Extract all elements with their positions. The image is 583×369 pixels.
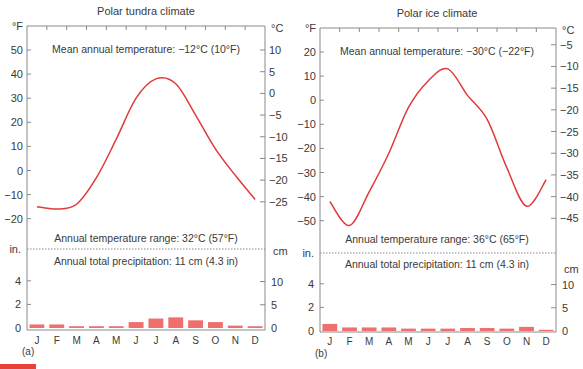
month-label: M: [365, 336, 373, 347]
precipitation-bar: [440, 329, 455, 331]
precipitation-bar: [460, 328, 475, 331]
tick-label-fahrenheit: −40: [297, 191, 316, 203]
month-label: M: [404, 336, 412, 347]
precipitation-bar: [342, 327, 357, 331]
month-label: N: [523, 336, 530, 347]
tick-label-celsius: −10: [560, 60, 579, 72]
month-label: J: [426, 336, 431, 347]
chart-panel-b: Polar ice climate°F°C20100−10−20−30−40−5…: [0, 0, 583, 369]
precipitation-bar: [480, 328, 495, 331]
tick-label-celsius: −15: [560, 82, 579, 94]
tick-label-celsius: −30: [560, 147, 579, 159]
unit-label-fahrenheit: °F: [305, 22, 316, 34]
month-label: S: [484, 336, 491, 347]
tick-label-fahrenheit: −50: [297, 215, 316, 227]
polar-ice-chart: Polar ice climate°F°C20100−10−20−30−40−5…: [0, 0, 583, 369]
precipitation-bar: [519, 327, 534, 331]
month-label: O: [503, 336, 511, 347]
tick-label-centimeters: 0: [562, 325, 568, 337]
month-label: J: [445, 336, 450, 347]
annual-total-precipitation-label: Annual total precipitation: 11 cm (4.3 i…: [345, 258, 529, 270]
panel-label: (b): [315, 348, 327, 359]
precipitation-bar: [322, 324, 337, 331]
temperature-curve: [330, 68, 546, 225]
precipitation-bar: [401, 329, 416, 331]
chart-title: Polar ice climate: [397, 7, 478, 19]
precipitation-bar: [499, 329, 514, 331]
tick-label-inches: 0: [308, 325, 314, 337]
precipitation-bar: [381, 327, 396, 331]
tick-label-fahrenheit: −20: [297, 142, 316, 154]
precipitation-bar: [539, 330, 554, 331]
figure-label-mark: [0, 364, 36, 369]
month-label: D: [543, 336, 550, 347]
unit-label-centimeters: cm: [564, 263, 579, 275]
tick-label-celsius: −45: [560, 212, 579, 224]
tick-label-inches: 4: [308, 278, 314, 290]
tick-label-celsius: −25: [560, 126, 579, 138]
precipitation-bar: [362, 327, 377, 331]
month-label: F: [346, 336, 352, 347]
tick-label-fahrenheit: 20: [304, 46, 316, 58]
tick-label-inches: 2: [308, 301, 314, 313]
unit-label-inches: in.: [302, 247, 314, 259]
month-label: J: [327, 336, 332, 347]
month-label: A: [464, 336, 471, 347]
tick-label-centimeters: 10: [562, 279, 574, 291]
precipitation-bar: [421, 329, 436, 331]
tick-label-celsius: −5: [560, 39, 573, 51]
tick-label-fahrenheit: 0: [310, 94, 316, 106]
tick-label-fahrenheit: −10: [297, 118, 316, 130]
tick-label-celsius: −20: [560, 104, 579, 116]
tick-label-centimeters: 5: [562, 302, 568, 314]
mean-annual-temperature-label: Mean annual temperature: −30°C (−22°F): [340, 45, 534, 57]
unit-label-celsius: °C: [562, 24, 574, 36]
tick-label-fahrenheit: −30: [297, 167, 316, 179]
tick-label-fahrenheit: 10: [304, 70, 316, 82]
tick-label-celsius: −35: [560, 169, 579, 181]
annual-temperature-range-label: Annual temperature range: 36°C (65°F): [345, 233, 529, 245]
month-label: A: [385, 336, 392, 347]
tick-label-celsius: −40: [560, 191, 579, 203]
